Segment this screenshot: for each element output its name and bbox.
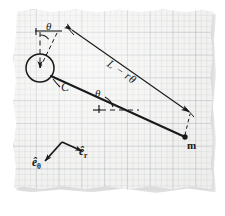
- unit-vector-er-subscript: r: [84, 151, 87, 160]
- mass-extension-dashed-line: [185, 114, 190, 135]
- theta-top-arc: [40, 35, 49, 39]
- unit-vector-etheta-label: êθ: [32, 157, 41, 171]
- spool-center-label: C: [61, 81, 69, 93]
- diagram-drawing: [0, 0, 225, 216]
- figure-screenshot: θ θ C L − rθ m êr êθ: [0, 0, 225, 216]
- string-line: [51, 76, 185, 137]
- unit-vector-etheta-arrow: [45, 142, 62, 161]
- theta-top-label: θ: [46, 21, 51, 32]
- theta-mid-label: θ: [95, 88, 100, 99]
- mass-label: m: [187, 140, 196, 151]
- unit-vector-er-label: êr: [79, 146, 87, 160]
- unit-vector-etheta-subscript: θ: [37, 162, 41, 171]
